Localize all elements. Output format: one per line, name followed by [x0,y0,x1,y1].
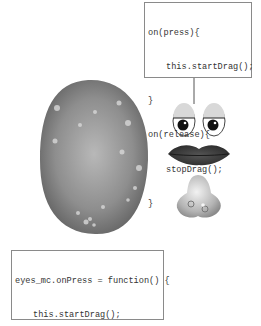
code-line: eyes_mc.onPress = function() { [15,276,160,287]
potato-body [40,80,148,234]
code-line: this.startDrag(); [148,62,248,73]
code-line: this.startDrag(); [15,310,160,321]
code-line: on(release){ [148,130,248,141]
code-line: stopDrag(); [148,165,248,176]
code-line: } [148,96,248,107]
code-line: } [148,199,248,210]
code-snippet-event-handlers: eyes_mc.onPress = function() { this.star… [11,250,164,320]
code-snippet-on-handlers: on(press){ this.startDrag(); } on(releas… [144,2,252,78]
code-line: on(press){ [148,28,248,39]
